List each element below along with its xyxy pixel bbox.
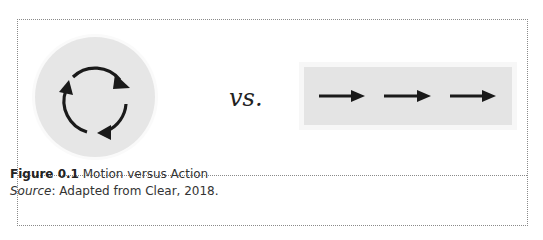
figure-label: Figure 0.1	[10, 167, 79, 181]
motion-panel	[32, 34, 158, 160]
action-panel	[299, 62, 517, 130]
source-label: Source	[10, 184, 51, 198]
action-rect	[304, 67, 512, 125]
caption-title-line: Figure 0.1 Motion versus Action	[10, 166, 219, 183]
forward-arrows-icon	[304, 67, 512, 125]
caption-source-line: Source: Adapted from Clear, 2018.	[10, 183, 219, 200]
source-text: : Adapted from Clear, 2018.	[51, 184, 218, 198]
cycle-arrows-icon	[35, 37, 155, 157]
figure-caption: Figure 0.1 Motion versus Action Source: …	[10, 166, 219, 200]
figure-title: Motion versus Action	[79, 167, 208, 181]
versus-label: vs.	[229, 84, 263, 112]
motion-circle	[35, 37, 155, 157]
